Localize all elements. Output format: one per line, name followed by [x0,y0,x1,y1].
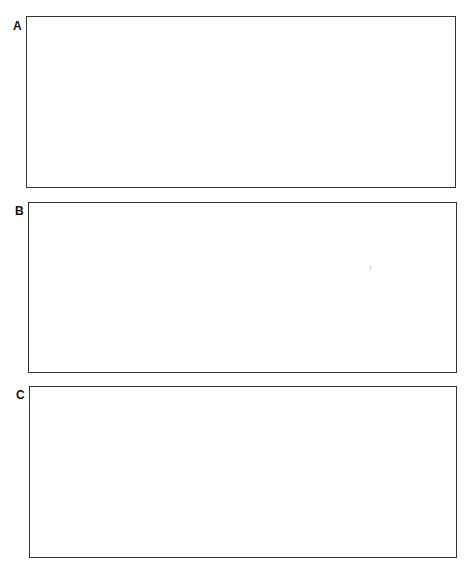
panel-a-label: A [13,20,22,32]
panel-c-label: C [16,389,25,401]
panel-b-label: B [15,205,24,217]
artifact-mark [370,266,371,269]
panel-b [28,202,457,373]
panel-a [26,16,456,188]
panel-c [29,386,457,558]
